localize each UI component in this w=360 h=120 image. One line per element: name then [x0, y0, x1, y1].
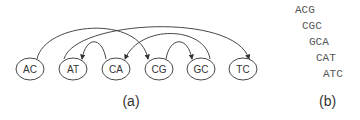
node-ca: CA: [102, 58, 130, 80]
kmer-item: GCA: [309, 37, 329, 48]
de-bruijn-graph: ACATCACGGCTC (a): [0, 0, 360, 120]
node-ac: AC: [16, 58, 44, 80]
svg-text:CG: CG: [152, 64, 167, 75]
caption-a: (a): [122, 93, 139, 109]
node-gc: GC: [187, 58, 215, 80]
node-cg: CG: [145, 58, 173, 80]
svg-text:GC: GC: [194, 64, 209, 75]
edge-ac-cg: [37, 28, 148, 59]
kmer-item: CGC: [302, 21, 322, 32]
edge-gc-ca: [125, 33, 210, 59]
svg-text:AT: AT: [67, 64, 79, 75]
edge-cg-gc: [166, 42, 192, 59]
svg-text:CA: CA: [109, 64, 123, 75]
kmer-item: ATC: [323, 69, 343, 80]
kmer-item: CAT: [316, 53, 336, 64]
node-at: AT: [59, 58, 87, 80]
caption-b: (b): [319, 93, 336, 109]
edge-at-tc: [64, 27, 249, 59]
kmer-item: ACG: [295, 5, 315, 16]
svg-text:AC: AC: [23, 64, 37, 75]
svg-text:TC: TC: [236, 64, 249, 75]
node-tc: TC: [229, 58, 257, 80]
edge-ca-at: [82, 42, 106, 59]
